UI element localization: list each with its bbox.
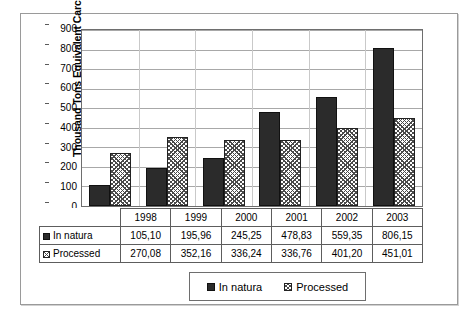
table-row-label: Processed (53, 248, 100, 259)
table-cell: 559,35 (322, 227, 372, 245)
table-column-header-2001: 2001 (271, 209, 321, 227)
bar-processed-2003 (394, 118, 415, 206)
bar-processed-1999 (167, 137, 188, 206)
chart-frame: Thousand Tons Equivalent Carcass 0100200… (20, 13, 458, 305)
bar-group (252, 30, 309, 206)
bars-layer (82, 30, 422, 206)
bar-processed-1998 (110, 153, 131, 206)
bar-processed-2002 (337, 128, 358, 206)
y-axis-tick-mark (45, 83, 49, 84)
bar-group (309, 30, 366, 206)
y-axis-tick-label: 500 (49, 103, 77, 113)
data-table-body: 199819992000200120022003In natura105,101… (40, 209, 423, 263)
y-axis-tick-label: 800 (49, 44, 77, 54)
table-row-label: In natura (53, 230, 92, 241)
legend-item-in-natura: In natura (207, 281, 262, 293)
table-cell: 352,16 (171, 245, 221, 263)
series-swatch-icon (43, 233, 50, 240)
bar-group (82, 30, 139, 206)
data-table: 199819992000200120022003In natura105,101… (39, 208, 423, 263)
y-axis-tick-mark (45, 162, 49, 163)
plot-area (81, 29, 423, 207)
y-axis-tick-mark (45, 123, 49, 124)
y-axis-tick-mark (45, 24, 49, 25)
y-axis-tick-mark (45, 143, 49, 144)
legend-label: Processed (296, 281, 348, 293)
table-cell: 195,96 (171, 227, 221, 245)
bar-group (365, 30, 422, 206)
legend-item-processed: Processed (284, 281, 348, 293)
bar-in-natura-2001 (259, 112, 280, 206)
legend-swatch-icon (284, 283, 292, 291)
bar-in-natura-1999 (146, 168, 167, 206)
chart-legend: In naturaProcessed (189, 272, 366, 301)
table-corner-cell (40, 209, 121, 227)
bar-processed-2001 (280, 140, 301, 206)
y-axis-tick-label: 200 (49, 162, 77, 172)
table-row: In natura105,10195,96245,25478,83559,358… (40, 227, 423, 245)
y-axis-tick-label: 400 (49, 123, 77, 133)
y-axis-tick-mark (45, 182, 49, 183)
table-cell: 245,25 (221, 227, 271, 245)
table-cell: 270,08 (121, 245, 171, 263)
plot-wrapper: 0100200300400500600700800900 (81, 29, 423, 207)
y-axis-tick-mark (45, 103, 49, 104)
table-cell: 478,83 (271, 227, 321, 245)
bar-processed-2000 (224, 140, 245, 206)
y-axis-tick-mark (45, 44, 49, 45)
y-axis-tick-label: 700 (49, 64, 77, 74)
table-row: Processed270,08352,16336,24336,76401,204… (40, 245, 423, 263)
y-axis-tick-label: 100 (49, 182, 77, 192)
table-column-header-2003: 2003 (372, 209, 422, 227)
bar-group (195, 30, 252, 206)
bar-in-natura-2003 (373, 48, 394, 206)
table-cell: 105,10 (121, 227, 171, 245)
y-axis-tick-label: 600 (49, 83, 77, 93)
bar-group (139, 30, 196, 206)
table-column-header-2000: 2000 (221, 209, 271, 227)
legend-label: In natura (219, 281, 262, 293)
table-row-header: Processed (40, 245, 121, 263)
table-column-header-1998: 1998 (121, 209, 171, 227)
bar-in-natura-1998 (89, 185, 110, 206)
bar-in-natura-2000 (203, 158, 224, 206)
y-axis-tick-labels: 0100200300400500600700800900 (49, 29, 77, 207)
table-cell: 806,15 (372, 227, 422, 245)
series-swatch-icon (43, 251, 50, 258)
legend-swatch-icon (207, 283, 215, 291)
table-column-header-2002: 2002 (322, 209, 372, 227)
y-axis-tick-label: 900 (49, 24, 77, 34)
y-axis-tick-mark (45, 64, 49, 65)
table-header-row: 199819992000200120022003 (40, 209, 423, 227)
bar-in-natura-2002 (316, 97, 337, 206)
table-row-header: In natura (40, 227, 121, 245)
table-cell: 451,01 (372, 245, 422, 263)
y-axis-tick-label: 300 (49, 143, 77, 153)
y-axis-tick-mark (45, 202, 49, 203)
table-cell: 336,24 (221, 245, 271, 263)
table-cell: 336,76 (271, 245, 321, 263)
table-column-header-1999: 1999 (171, 209, 221, 227)
table-cell: 401,20 (322, 245, 372, 263)
